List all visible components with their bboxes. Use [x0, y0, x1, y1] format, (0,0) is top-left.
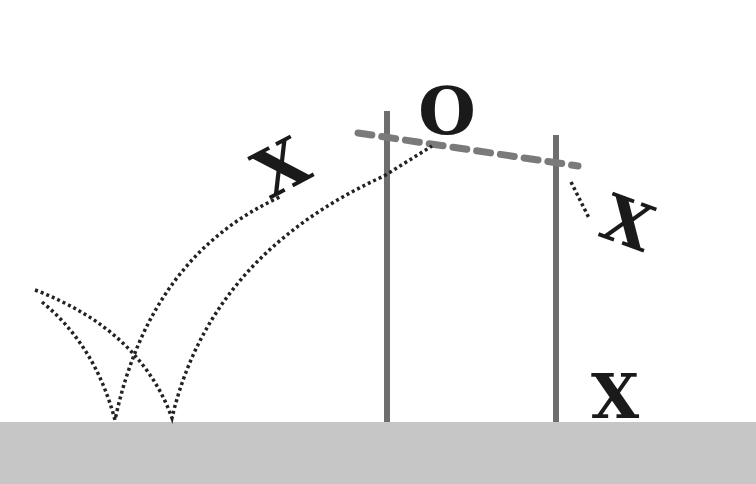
fall-trajectory: [571, 182, 589, 218]
mark-x-fall: X: [592, 179, 665, 267]
trajectory-inner: [35, 146, 432, 418]
right-pole: [553, 135, 559, 422]
high-jump-scene: X O X X: [0, 0, 756, 484]
diagram-canvas: X O X X: [0, 0, 756, 484]
mark-x-ground: X: [591, 360, 640, 433]
mark-x-jump: X: [240, 121, 323, 214]
left-pole: [384, 111, 390, 422]
trajectory-outer: [42, 196, 282, 420]
mark-o-top: O: [418, 72, 476, 150]
